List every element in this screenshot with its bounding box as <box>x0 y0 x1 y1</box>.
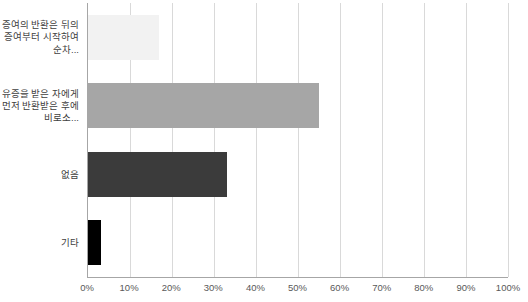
x-axis-tick-label: 40% <box>246 282 265 293</box>
bar <box>88 152 227 197</box>
bar <box>88 220 101 265</box>
category-label: 없음 <box>0 141 83 210</box>
plot-area <box>87 3 508 278</box>
gridline <box>508 3 509 277</box>
x-axis-tick-label: 90% <box>456 282 475 293</box>
bar-chart: 증여의 반환은 뒤의 증여부터 시작하여 순차...유증을 받은 자에게 먼저 … <box>0 0 528 302</box>
x-axis-tick-label: 100% <box>496 282 520 293</box>
x-axis: 0%10%20%30%40%50%60%70%80%90%100% <box>87 282 508 296</box>
x-axis-tick-label: 20% <box>162 282 181 293</box>
x-axis-tick-label: 70% <box>372 282 391 293</box>
bar-row <box>88 140 508 209</box>
x-axis-tick-label: 10% <box>120 282 139 293</box>
category-axis: 증여의 반환은 뒤의 증여부터 시작하여 순차...유증을 받은 자에게 먼저 … <box>0 3 83 278</box>
bar-row <box>88 72 508 141</box>
category-label: 증여의 반환은 뒤의 증여부터 시작하여 순차... <box>0 3 83 72</box>
x-axis-tick-label: 80% <box>414 282 433 293</box>
bar-row <box>88 3 508 72</box>
bar <box>88 15 159 60</box>
x-axis-tick-label: 60% <box>330 282 349 293</box>
bar <box>88 83 319 128</box>
category-label: 유증을 받은 자에게 먼저 반환받은 후에 비로소... <box>0 72 83 141</box>
bar-row <box>88 209 508 278</box>
category-label: 기타 <box>0 209 83 278</box>
x-axis-tick-label: 30% <box>204 282 223 293</box>
x-axis-tick-label: 50% <box>288 282 307 293</box>
x-axis-tick-label: 0% <box>80 282 94 293</box>
